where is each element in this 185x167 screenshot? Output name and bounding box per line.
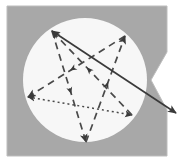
figure-container <box>0 0 185 167</box>
white-circle <box>23 18 147 142</box>
star-in-circle-figure <box>0 0 185 167</box>
